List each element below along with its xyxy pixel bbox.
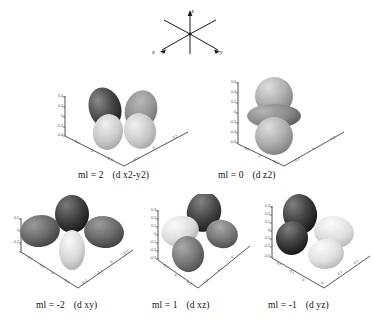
axis-label-z: z (191, 8, 195, 14)
tick-z-1: 0.2 (258, 213, 270, 217)
caption-orbital-dyz: (d yz) (306, 300, 329, 310)
caption-orbital-dx2y2: (d x2-y2) (113, 170, 150, 180)
tick-z-3: 0 (258, 229, 270, 233)
tick-z-2: 0 (50, 115, 63, 119)
orbital-panel-dxy: 0.2 0 -0.2 0.2 0.1 0 -0.1 -0.2 -0.1 0 0.… (2, 194, 137, 296)
tick-z-3: -0.2 (50, 125, 63, 129)
tick-z-4: -0.1 (144, 241, 156, 245)
tick-z-4: -0.1 (258, 237, 270, 241)
axis-label-x: x (151, 49, 155, 55)
tick-z-4: -0.2 (223, 121, 236, 125)
orbital-panel-dxz: 0.3 0.2 0.1 0 -0.1 -0.2 -0.3 -0.1 0 0.1 … (122, 194, 252, 296)
tick-z-0: 0.2 (7, 217, 19, 221)
tick-z-5: -0.2 (144, 249, 156, 253)
tick-z-1: 0.4 (223, 91, 236, 95)
tick-z-2: 0.2 (223, 101, 236, 105)
axis-label-y: y (219, 49, 223, 55)
tick-z-2: 0.1 (258, 221, 270, 225)
tick-z-4: -0.4 (50, 134, 63, 138)
caption-dyz: ml = -1(d yz) (268, 300, 329, 310)
tick-z-6: -0.3 (258, 255, 270, 259)
tick-z-5: -0.2 (258, 245, 270, 249)
orbital-panel-dx2y2: 0.4 0.2 0 -0.2 -0.4 0.2 0 -0.2 -0.2 0 0.… (18, 74, 196, 170)
orbital-figure: z y x (0, 0, 373, 323)
tick-z-1: 0.2 (144, 217, 156, 221)
caption-ml-dxy: ml = -2 (36, 300, 65, 310)
coordinate-axes-key: z y x (150, 6, 230, 58)
caption-dz2: ml = 0(d z2) (218, 170, 276, 180)
tick-z-0: 0.4 (50, 95, 63, 99)
tick-z-2: 0.1 (144, 225, 156, 229)
caption-dxy: ml = -2(d xy) (36, 300, 97, 310)
tick-z-3: 0 (144, 233, 156, 237)
tick-z-0: 0.3 (144, 209, 156, 213)
tick-z-1: 0.2 (50, 105, 63, 109)
caption-orbital-dz2: (d z2) (253, 170, 276, 180)
caption-ml-dxz: ml = 1 (152, 300, 178, 310)
caption-ml-dyz: ml = -1 (268, 300, 297, 310)
caption-ml-dz2: ml = 0 (218, 170, 244, 180)
caption-orbital-dxz: (d xz) (187, 300, 210, 310)
orbital-panel-dyz: 0.3 0.2 0.1 0 -0.1 -0.2 -0.3 0.2 0.1 0 0… (242, 194, 373, 296)
caption-orbital-dxy: (d xy) (74, 300, 98, 310)
tick-z-1: 0 (7, 229, 19, 233)
caption-ml-dx2y2: ml = 2 (78, 170, 104, 180)
tick-z-0: 0.3 (258, 205, 270, 209)
orbital-panel-dz2: 0.6 0.4 0.2 0 -0.2 -0.4 -0.6 0.2 0 -0.2 … (196, 74, 356, 170)
tick-z-6: -0.6 (223, 141, 236, 145)
tick-z-6: -0.3 (144, 257, 156, 261)
caption-dx2y2: ml = 2(d x2-y2) (78, 170, 149, 180)
tick-z-5: -0.4 (223, 131, 236, 135)
tick-z-0: 0.6 (223, 81, 236, 85)
caption-dxz: ml = 1(d xz) (152, 300, 210, 310)
tick-z-2: -0.2 (7, 241, 19, 245)
tick-z-3: 0 (223, 111, 236, 115)
